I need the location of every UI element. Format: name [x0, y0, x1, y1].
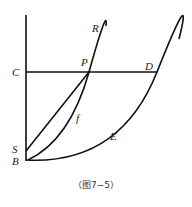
label-d: D — [144, 60, 153, 72]
label-r: R — [91, 22, 99, 34]
label-s: S — [12, 143, 18, 155]
figure-caption: （图7−5） — [73, 180, 119, 190]
curve-e — [26, 15, 183, 160]
line-s-p — [26, 72, 89, 151]
label-f: f — [76, 112, 81, 124]
label-c: C — [12, 66, 20, 78]
label-e: E — [109, 130, 117, 142]
label-b: B — [12, 155, 19, 167]
figure-7-5: C P D R S B f E （图7−5） — [0, 0, 192, 207]
label-p: P — [80, 56, 88, 68]
curve-f — [28, 21, 106, 160]
